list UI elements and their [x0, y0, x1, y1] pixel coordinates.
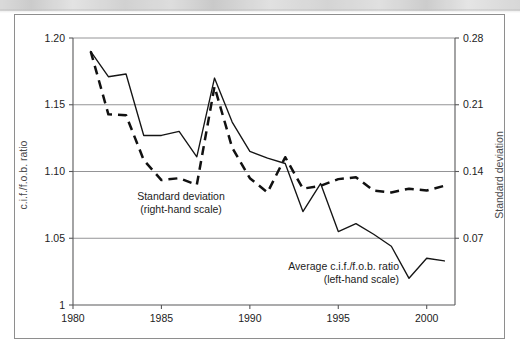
annotation-std-dev-line1: Standard deviation	[137, 190, 225, 202]
y-axis-left-title: c.i.f./f.o.b. ratio	[17, 140, 29, 209]
y-axis-right: 0.280.210.140.07	[455, 32, 484, 305]
x-tick-label: 1990	[238, 312, 262, 324]
left-tick-label: 1.15	[45, 98, 66, 110]
y-axis-right-title: Standard deviation	[493, 131, 505, 219]
x-tick-label: 1995	[327, 312, 351, 324]
x-tick-label: 1985	[150, 312, 174, 324]
x-tick-label: 2000	[415, 312, 439, 324]
right-tick-label: 0.14	[463, 165, 484, 177]
annotation-avg-ratio-line1: Average c.i.f./f.o.b. ratio	[288, 260, 399, 272]
right-tick-label: 0.21	[463, 98, 484, 110]
annotation-avg-ratio-line2: (left-hand scale)	[324, 273, 399, 285]
series-average-ratio-line	[91, 51, 445, 278]
chart-figure: 11.051.101.151.20 0.280.210.140.07 19801…	[0, 0, 520, 354]
x-tick-label: 1980	[61, 312, 85, 324]
left-tick-label: 1	[59, 299, 65, 311]
chart-svg: 11.051.101.151.20 0.280.210.140.07 19801…	[0, 0, 520, 354]
left-tick-label: 1.05	[45, 232, 66, 244]
left-tick-label: 1.20	[45, 32, 66, 44]
y-axis-left: 11.051.101.151.20	[45, 32, 73, 311]
left-tick-label: 1.10	[45, 165, 66, 177]
grid-lines	[73, 38, 455, 238]
annotation-std-dev-line2: (right-hand scale)	[140, 203, 222, 215]
x-axis: 19801985199019952000	[61, 305, 455, 324]
right-tick-label: 0.07	[463, 232, 484, 244]
right-tick-label: 0.28	[463, 32, 484, 44]
